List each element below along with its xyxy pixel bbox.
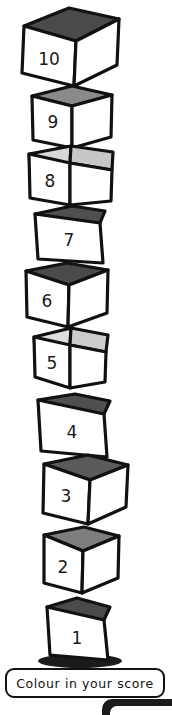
page-corner-decoration-inner (110, 706, 172, 715)
colour-in-your-score-box[interactable]: Colour in your score (5, 668, 165, 698)
block-1-number: 1 (72, 628, 83, 648)
score-tower-illustration: 10 9 8 7 6 5 4 (0, 0, 172, 715)
page-corner-decoration (102, 699, 172, 715)
block-1[interactable]: 1 (0, 0, 172, 715)
colour-in-your-score-label: Colour in your score (16, 676, 154, 691)
